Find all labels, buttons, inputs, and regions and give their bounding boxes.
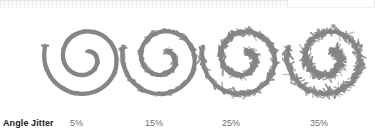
value-label-1: 5%: [70, 118, 83, 128]
brush-sample-4: [282, 8, 375, 114]
toolbar-tick-marks: [0, 1, 287, 6]
value-label-3: 25%: [222, 118, 240, 128]
value-label-2: 15%: [145, 118, 163, 128]
brush-sample-row: [0, 8, 375, 114]
value-label-4: 35%: [310, 118, 328, 128]
parameter-name-label: Angle Jitter: [3, 118, 54, 128]
label-row: Angle Jitter 5% 15% 25% 35%: [0, 114, 375, 133]
toolbar-inset-panel: [287, 0, 375, 8]
brush-sample-3: [197, 8, 293, 114]
angle-jitter-figure: Angle Jitter 5% 15% 25% 35%: [0, 0, 375, 133]
cropped-toolbar-strip: [0, 0, 375, 8]
